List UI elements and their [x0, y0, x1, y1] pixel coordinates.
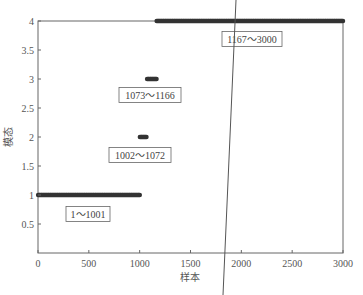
y-tick-label: 1 — [29, 190, 34, 201]
range-annotation-box: 1002～1072 — [109, 148, 171, 163]
series-layer — [38, 21, 343, 195]
y-tick-label: 0.5 — [22, 219, 35, 230]
x-tick-label: 1500 — [181, 258, 201, 269]
x-tick-label: 0 — [36, 258, 41, 269]
x-tick-label: 2000 — [231, 258, 251, 269]
range-annotation-box: 1167～3000 — [222, 32, 282, 47]
range-annotation-box: 1073～1166 — [119, 88, 181, 103]
range-annotation-text: 1002～1072 — [115, 150, 165, 161]
y-tick-label: 1.5 — [22, 161, 35, 172]
range-annotation-text: 1～1001 — [71, 209, 106, 220]
x-tick-label: 2500 — [282, 258, 302, 269]
y-tick-label: 2.5 — [22, 103, 35, 114]
y-axis-label: 模态 — [2, 127, 14, 147]
x-tick-label: 1000 — [130, 258, 150, 269]
mode-scatter-chart: 050010001500200025003000 0.511.522.533.5… — [0, 0, 363, 295]
y-tick-label: 2 — [29, 132, 34, 143]
range-annotation-box: 1～1001 — [66, 207, 110, 222]
x-axis-label: 样本 — [180, 271, 200, 283]
y-tick-label: 4 — [29, 16, 34, 27]
y-tick-label: 3 — [29, 74, 34, 85]
y-tick-label: 3.5 — [22, 45, 35, 56]
range-annotation-text: 1073～1166 — [125, 90, 175, 101]
x-tick-label: 500 — [81, 258, 96, 269]
x-tick-label: 3000 — [333, 258, 353, 269]
